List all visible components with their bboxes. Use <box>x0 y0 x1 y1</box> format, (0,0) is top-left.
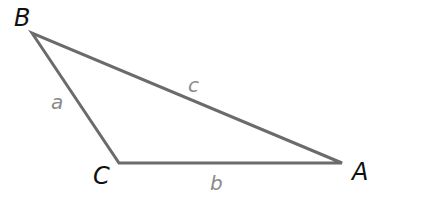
vertex-label-a: A <box>350 158 368 186</box>
vertex-label-b: B <box>14 4 30 32</box>
vertex-label-c: C <box>93 162 110 190</box>
side-label-c: c <box>188 73 199 97</box>
side-label-a: a <box>51 90 63 114</box>
triangle-abc <box>32 33 342 163</box>
side-label-b: b <box>210 171 223 195</box>
triangle-diagram: B C A a b c <box>0 0 422 218</box>
